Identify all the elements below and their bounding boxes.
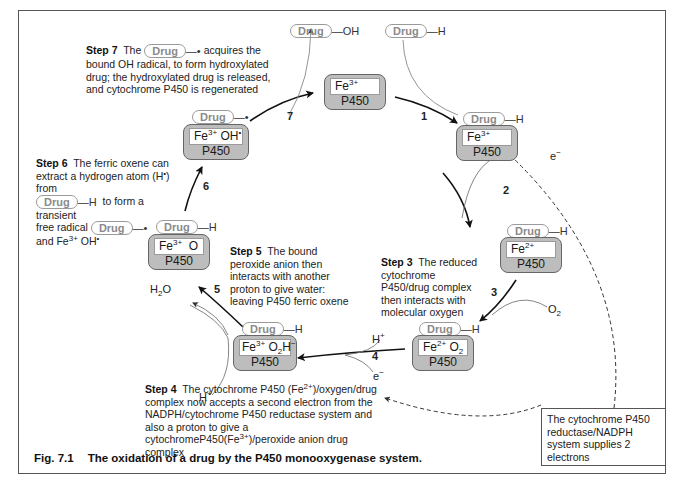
- electron-1-curve: [462, 158, 494, 218]
- drug-radical: Drug—•: [192, 110, 249, 123]
- proton-5-curve: [190, 305, 229, 395]
- p450-label: P450: [325, 94, 385, 108]
- drug-pill: Drug: [385, 24, 427, 38]
- hydroxylated-drug-product: Drug—OH: [290, 24, 359, 37]
- figure-title: The oxidation of a drug by the P450 mono…: [88, 452, 422, 464]
- bound-drug-2: Drug—H: [507, 224, 568, 237]
- proton-label-4: H+: [372, 333, 385, 345]
- step-number-7: 7: [287, 110, 293, 122]
- electron-supply-dashed-1: [510, 155, 616, 408]
- step-3-description: Step 3 The reduced cytochrome P450/drug …: [381, 256, 481, 319]
- p450-hydroxyl-complex: Fe3+ OH• P450: [183, 124, 249, 160]
- free-drug-substrate: Drug—H: [385, 24, 446, 37]
- bound-drug-1: Drug—H: [463, 112, 524, 125]
- reductase-note-box: The cytochrome P450 reductase/NADPH syst…: [541, 408, 666, 466]
- p450-resting-complex: Fe3+ P450: [324, 74, 386, 110]
- step-number-1: 1: [421, 110, 427, 122]
- step-4-description: Step 4 The cytochrome P450 (Fe2+)/oxygen…: [145, 383, 383, 458]
- arrow-step-7: [250, 93, 313, 121]
- figure-caption: Fig. 7.1The oxidation of a drug by the P…: [34, 452, 422, 464]
- p450-oxy-complex: Fe2+ O2 P450: [412, 335, 474, 371]
- drug-h: H: [438, 25, 446, 37]
- electron-label-2: e−: [373, 370, 384, 382]
- step-number-6: 6: [203, 180, 209, 192]
- step-number-2: 2: [503, 184, 509, 196]
- step-5-description: Step 5 The bound peroxide anion then int…: [230, 245, 350, 308]
- arrow-step-3: [480, 280, 516, 321]
- drug-oh: OH: [343, 25, 360, 37]
- step-7-description: Step 7 The Drug—• acquires the bound OH …: [86, 44, 276, 96]
- step-number-5: 5: [214, 283, 220, 295]
- p450-drug-complex: Fe3+ P450: [456, 125, 518, 161]
- figure-number: Fig. 7.1: [34, 452, 74, 464]
- step-6-description: Step 6 The ferric oxene can extract a hy…: [36, 157, 184, 248]
- drug-in-curve: [403, 40, 458, 115]
- bound-drug-3: Drug—H: [419, 322, 480, 335]
- oxygen-label: O2: [548, 303, 561, 315]
- electron-2-curve: [345, 355, 373, 372]
- bound-drug-4: Drug—H: [242, 322, 303, 335]
- drug-pill: Drug: [290, 24, 332, 38]
- step-number-4: 4: [372, 350, 378, 362]
- step-number-3: 3: [491, 286, 497, 298]
- electron-label-1: e−: [550, 150, 561, 162]
- arrow-step-6: [185, 167, 202, 211]
- p450-peroxide-complex: Fe3+ O2H− P450: [233, 335, 297, 371]
- electron-supply-dashed-2: [385, 398, 541, 416]
- p450-reduced-complex: Fe2+ P450: [500, 237, 562, 273]
- drug-out-curve: [289, 29, 311, 115]
- water-label: H2O: [150, 283, 171, 295]
